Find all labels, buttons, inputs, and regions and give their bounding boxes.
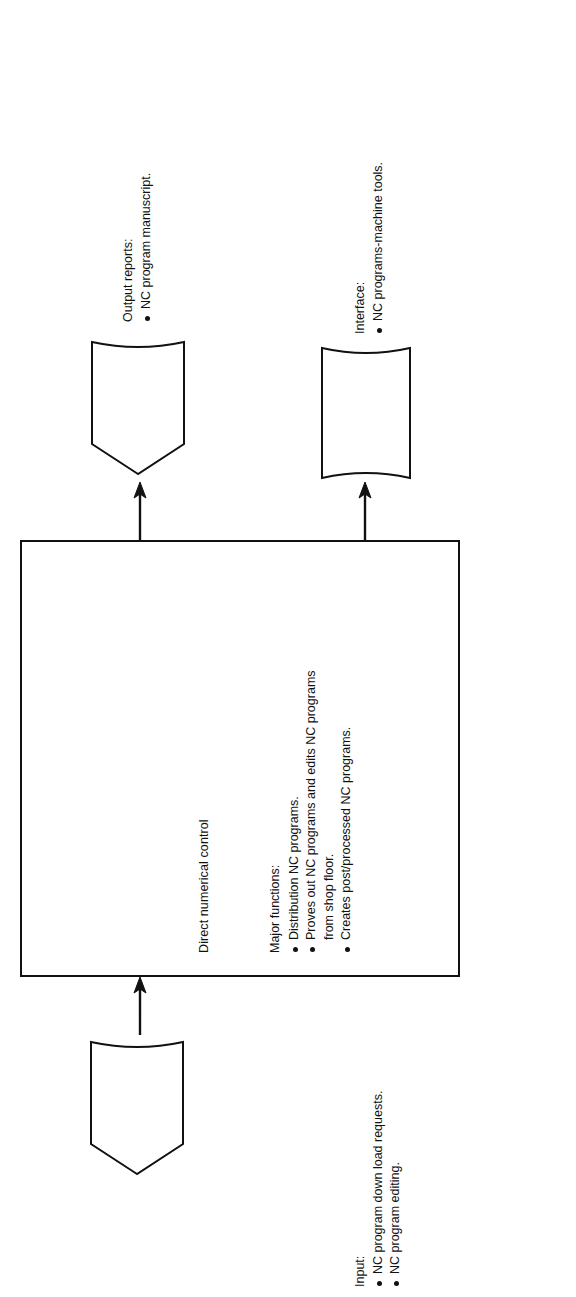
arrow-icon bbox=[130, 975, 150, 1035]
process-title: Direct numerical control bbox=[197, 819, 211, 953]
output-reports-document-shape bbox=[88, 332, 188, 482]
interface-item-list: NC programs-machine tools. bbox=[370, 162, 388, 334]
major-functions-header: Major functions: bbox=[267, 670, 285, 953]
curved-edge-box-icon bbox=[318, 342, 414, 482]
list-item: NC program manuscript. bbox=[138, 173, 156, 322]
input-document-shape bbox=[87, 1032, 187, 1182]
list-item: Proves out NC programs and edits NC prog… bbox=[303, 670, 321, 953]
input-annotation: Input: NC program down load requests. NC… bbox=[352, 1091, 405, 1287]
major-functions-block: Major functions: Distribution NC program… bbox=[267, 670, 356, 953]
arrow-icon bbox=[355, 480, 375, 540]
interface-annotation: Interface: NC programs-machine tools. bbox=[352, 162, 387, 334]
arrow-icon bbox=[130, 480, 150, 540]
interface-header: Interface: bbox=[352, 162, 370, 334]
interface-shape bbox=[318, 342, 414, 482]
list-item: NC programs-machine tools. bbox=[370, 162, 388, 334]
list-item: NC program down load requests. bbox=[370, 1091, 388, 1287]
connector-input-to-process bbox=[130, 975, 150, 1035]
document-symbol-icon bbox=[88, 332, 188, 482]
output-reports-annotation: Output reports: NC program manuscript. bbox=[120, 173, 155, 322]
output-reports-item-list: NC program manuscript. bbox=[138, 173, 156, 322]
connector-process-to-interface bbox=[355, 480, 375, 540]
flowchart-canvas: Input: NC program down load requests. NC… bbox=[0, 0, 576, 1297]
process-box-direct-numerical-control: Direct numerical control Major functions… bbox=[20, 540, 460, 977]
document-symbol-icon bbox=[87, 1032, 187, 1182]
list-item: Distribution NC programs. bbox=[286, 670, 304, 953]
list-item: Creates post/processed NC programs. bbox=[338, 670, 356, 953]
input-item-list: NC program down load requests. NC progra… bbox=[370, 1091, 405, 1287]
major-functions-list: Distribution NC programs. Proves out NC … bbox=[286, 670, 356, 953]
list-item: NC program editing. bbox=[387, 1091, 405, 1287]
connector-process-to-output-reports bbox=[130, 480, 150, 540]
list-item: from shop floor. bbox=[321, 670, 339, 953]
input-header: Input: bbox=[352, 1091, 370, 1287]
output-reports-header: Output reports: bbox=[120, 173, 138, 322]
